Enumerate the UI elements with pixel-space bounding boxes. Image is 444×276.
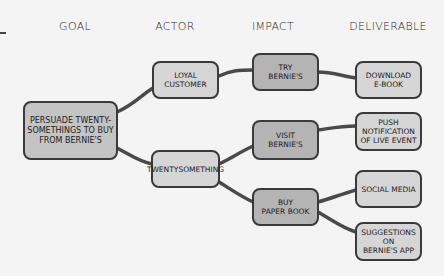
link-twenty-buy [219,182,253,202]
node-goal: PERSUADE TWENTY- SOMETHINGS TO BUY FROM … [23,101,118,160]
node-download-ebook: DOWNLOAD E-BOOK [355,61,422,99]
link-loyal-try [219,70,253,76]
link-buy-social [318,190,356,202]
node-push-notification: PUSH NOTIFICATION OF LIVE EVENT [355,112,422,151]
node-loyal-customer: LOYAL CUSTOMER [152,61,219,99]
node-try-bernies: TRY BERNIE'S [252,53,319,91]
link-twenty-visit [219,146,253,164]
link-goal-twentysomething [117,148,152,164]
node-buy-paper-book: BUY PAPER BOOK [252,188,319,226]
link-goal-loyal [117,88,153,112]
link-try-download [318,72,356,78]
node-suggestions: SUGGESTIONS ON BERNIE'S APP [355,222,422,261]
link-visit-push [318,126,356,130]
node-social-media: SOCIAL MEDIA [355,170,422,208]
link-buy-suggestions [318,212,356,232]
node-twentysomething: TWENTYSOMETHING [151,150,220,188]
node-visit-bernies: VISIT BERNIE'S [252,120,319,160]
